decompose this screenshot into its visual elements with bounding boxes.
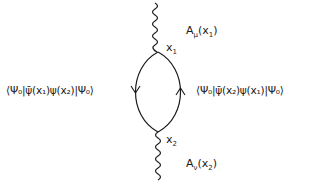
photon-top-arg: (x [198,24,209,37]
photon-line-bottom [156,132,161,180]
vertex-x2-symbol: x [166,133,173,146]
fermion-arc-right [158,52,181,132]
vertex-x1-symbol: x [166,41,173,54]
left-expression: ⟨Ψ₀|ψ̄(x₁)ψ(x₂)|Ψ₀⟩ [6,84,94,96]
photon-bottom-arg-sub: 2 [208,164,212,172]
vertex-label-x1: x1 [166,42,177,55]
photon-top-close: ) [213,24,217,37]
photon-label-bottom: Aν(x2) [186,158,217,171]
photon-label-top: Aμ(x1) [186,25,218,38]
vertex-x2-subscript: 2 [173,140,177,148]
right-expression: ⟨Ψ₀|ψ̄(x₂)ψ(x₁)|Ψ₀⟩ [196,84,284,96]
vertex-x1-subscript: 1 [173,48,177,56]
photon-bottom-index: ν [194,164,198,172]
photon-bottom-arg: (x [197,157,208,170]
photon-line-top [153,3,158,52]
vertex-label-x2: x2 [166,134,177,147]
photon-top-A: A [186,24,194,37]
photon-bottom-A: A [186,157,194,170]
photon-bottom-close: ) [213,157,217,170]
photon-top-index: μ [194,31,198,39]
fermion-arc-left [136,52,159,132]
photon-top-arg-sub: 1 [209,31,213,39]
